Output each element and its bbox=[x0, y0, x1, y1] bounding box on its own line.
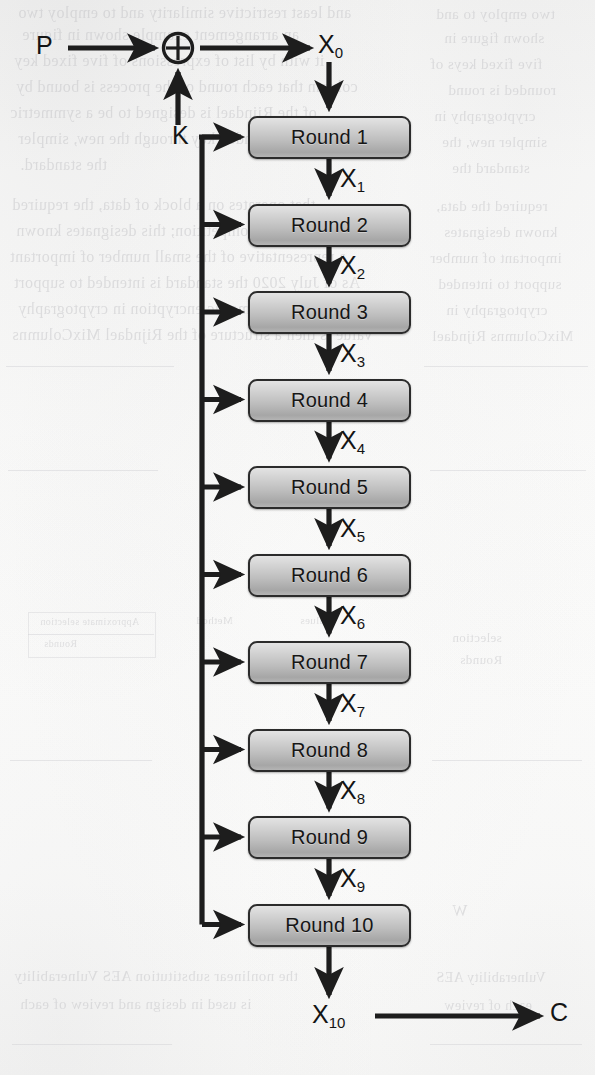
round-box-8[interactable]: Round 8 bbox=[248, 729, 411, 772]
round-box-1[interactable]: Round 1 bbox=[248, 116, 411, 159]
state-label-x0-base: X bbox=[318, 30, 335, 58]
figure-page: and least restrictive similarity and to … bbox=[0, 0, 595, 1075]
round-box-4[interactable]: Round 4 bbox=[248, 379, 411, 422]
label-plaintext: P bbox=[36, 33, 53, 58]
state-label-x4-base: X bbox=[340, 426, 357, 454]
state-label-x6-sub: 6 bbox=[357, 615, 365, 632]
state-label-x7-sub: 7 bbox=[357, 703, 365, 720]
state-label-x3-base: X bbox=[340, 339, 357, 367]
label-key: K bbox=[172, 123, 189, 148]
state-label-x2-sub: 2 bbox=[357, 265, 365, 282]
state-label-x2: X2 bbox=[340, 253, 365, 278]
state-label-x4: X4 bbox=[340, 428, 365, 453]
state-label-x7: X7 bbox=[340, 691, 365, 716]
state-label-x7-base: X bbox=[340, 689, 357, 717]
state-label-x0: X0 bbox=[318, 32, 343, 57]
state-label-x10: X10 bbox=[312, 1002, 345, 1027]
cipher-diagram: P K C X0 X1 X2 X3 X4 X5 X6 X7 X8 bbox=[0, 0, 595, 1075]
round-box-7[interactable]: Round 7 bbox=[248, 641, 411, 684]
state-label-x1-base: X bbox=[340, 164, 357, 192]
state-label-x9-base: X bbox=[340, 864, 357, 892]
round-box-5[interactable]: Round 5 bbox=[248, 466, 411, 509]
state-label-x8-base: X bbox=[340, 776, 357, 804]
state-label-x3-sub: 3 bbox=[357, 353, 365, 370]
state-label-x9-sub: 9 bbox=[357, 878, 365, 895]
round-box-3[interactable]: Round 3 bbox=[248, 291, 411, 334]
state-label-x3: X3 bbox=[340, 341, 365, 366]
state-label-x10-sub: 10 bbox=[329, 1014, 346, 1031]
state-label-x0-sub: 0 bbox=[335, 44, 343, 61]
state-label-x4-sub: 4 bbox=[357, 440, 365, 457]
round-box-10[interactable]: Round 10 bbox=[248, 904, 411, 947]
state-label-x9: X9 bbox=[340, 866, 365, 891]
state-label-x1: X1 bbox=[340, 166, 365, 191]
state-label-x8: X8 bbox=[340, 778, 365, 803]
state-label-x6-base: X bbox=[340, 601, 357, 629]
round-box-6[interactable]: Round 6 bbox=[248, 554, 411, 597]
state-label-x8-sub: 8 bbox=[357, 790, 365, 807]
state-label-x5: X5 bbox=[340, 516, 365, 541]
state-label-x5-base: X bbox=[340, 514, 357, 542]
state-label-x10-base: X bbox=[312, 1000, 329, 1028]
label-ciphertext: C bbox=[550, 1000, 568, 1025]
round-box-2[interactable]: Round 2 bbox=[248, 204, 411, 247]
state-label-x2-base: X bbox=[340, 251, 357, 279]
state-label-x1-sub: 1 bbox=[357, 178, 365, 195]
round-box-9[interactable]: Round 9 bbox=[248, 816, 411, 859]
state-label-x6: X6 bbox=[340, 603, 365, 628]
state-label-x5-sub: 5 bbox=[357, 528, 365, 545]
